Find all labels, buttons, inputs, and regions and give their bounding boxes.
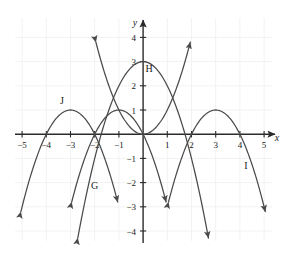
curve-label-j: J <box>60 95 64 106</box>
plot-background <box>0 0 290 255</box>
y-tick-label: −2 <box>126 178 136 188</box>
x-tick-label: 4 <box>238 140 243 150</box>
y-tick-label: −3 <box>126 202 136 212</box>
x-tick-label: −1 <box>114 140 124 150</box>
coordinate-plane: −5 −4 −3 −2 −1 1 2 3 4 5 4 3 2 1 −1 −2 −… <box>0 0 290 255</box>
x-axis-label: x <box>274 132 280 143</box>
x-tick-label: 1 <box>165 140 170 150</box>
y-axis-label: y <box>132 17 138 28</box>
y-tick-label: 2 <box>132 81 137 91</box>
curve-label-g: G <box>91 180 98 191</box>
curve-label-h: H <box>146 63 153 74</box>
x-tick-label: 2 <box>189 140 194 150</box>
x-tick-label: 5 <box>262 140 267 150</box>
y-tick-label: −4 <box>126 227 136 237</box>
y-tick-label: −1 <box>126 154 136 164</box>
x-tick-label: −5 <box>17 140 27 150</box>
y-tick-label: 4 <box>132 33 137 43</box>
x-tick-label: 3 <box>213 140 218 150</box>
curve-label-i: I <box>244 160 247 171</box>
graph-figure: −5 −4 −3 −2 −1 1 2 3 4 5 4 3 2 1 −1 −2 −… <box>0 0 290 255</box>
x-tick-label: −3 <box>66 140 76 150</box>
y-tick-label: 1 <box>132 106 137 116</box>
